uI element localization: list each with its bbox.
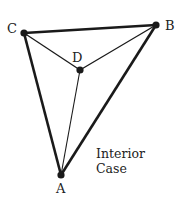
triangle-diagram: C B D A Interior Case: [0, 0, 182, 217]
vertex-c: [20, 29, 27, 36]
vertex-a: [57, 171, 64, 178]
vertex-d: [76, 66, 83, 73]
vertex-b: [152, 21, 159, 28]
edge-c-b: [24, 25, 156, 33]
caption-line-1: Interior: [96, 146, 145, 161]
label-a: A: [55, 181, 66, 196]
caption-line-2: Case: [96, 161, 127, 176]
label-c: C: [7, 21, 17, 36]
edge-b-d: [80, 25, 156, 70]
label-d: D: [72, 50, 82, 65]
label-b: B: [165, 18, 175, 33]
